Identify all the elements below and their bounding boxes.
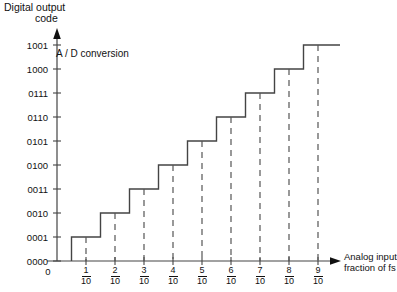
fraction-denominator: 10: [168, 277, 178, 286]
fraction-denominator: 10: [139, 277, 149, 286]
y-tick-label: 0001: [14, 232, 48, 243]
dropline-group: [86, 45, 318, 261]
x-tick-label-fraction: 9 10: [313, 266, 323, 286]
x-axis-label-line1: Analog input: [344, 252, 397, 262]
fraction-numerator: 8: [284, 266, 294, 275]
fraction-numerator: 7: [255, 266, 265, 275]
fraction-denominator: 10: [110, 277, 120, 286]
y-tick-label: 0110: [14, 112, 48, 123]
fraction-numerator: 1: [81, 266, 91, 275]
y-tick-label: 0010: [14, 208, 48, 219]
fraction-denominator: 10: [284, 277, 294, 286]
y-axis-label-line2: code: [35, 13, 58, 24]
y-axis: [53, 28, 61, 261]
fraction-denominator: 10: [313, 277, 323, 286]
y-tick-label: 0000: [14, 256, 48, 267]
x-tick-label-fraction: 1 10: [81, 266, 91, 286]
plot-annotation: A / D conversion: [56, 49, 129, 60]
x-axis: [47, 257, 341, 265]
fraction-denominator: 10: [226, 277, 236, 286]
staircase-curve: [72, 45, 341, 261]
y-tick-label: 0100: [14, 160, 48, 171]
fraction-denominator: 10: [255, 277, 265, 286]
x-tick-label-fraction: 8 10: [284, 266, 294, 286]
y-tick-label: 0011: [14, 184, 48, 195]
y-tick-label: 0111: [14, 88, 48, 99]
y-tick-label: 0101: [14, 136, 48, 147]
y-tick-label: 1001: [14, 40, 48, 51]
x-tick-label-fraction: 3 10: [139, 266, 149, 286]
fraction-numerator: 4: [168, 266, 178, 275]
x-tick-label-fraction: 4 10: [168, 266, 178, 286]
y-tick-label: 1000: [14, 64, 48, 75]
x-tick-label-fraction: 2 10: [110, 266, 120, 286]
fraction-denominator: 10: [197, 277, 207, 286]
fraction-numerator: 6: [226, 266, 236, 275]
x-axis-label-line2: fraction of fs: [344, 263, 396, 273]
x-tick-label-fraction: 5 10: [197, 266, 207, 286]
fraction-numerator: 9: [313, 266, 323, 275]
x-tick-label-origin: 0: [45, 266, 50, 277]
x-tick-label-fraction: 6 10: [226, 266, 236, 286]
fraction-numerator: 3: [139, 266, 149, 275]
x-tick-label-fraction: 7 10: [255, 266, 265, 286]
fraction-denominator: 10: [81, 277, 91, 286]
fraction-numerator: 2: [110, 266, 120, 275]
fraction-numerator: 5: [197, 266, 207, 275]
